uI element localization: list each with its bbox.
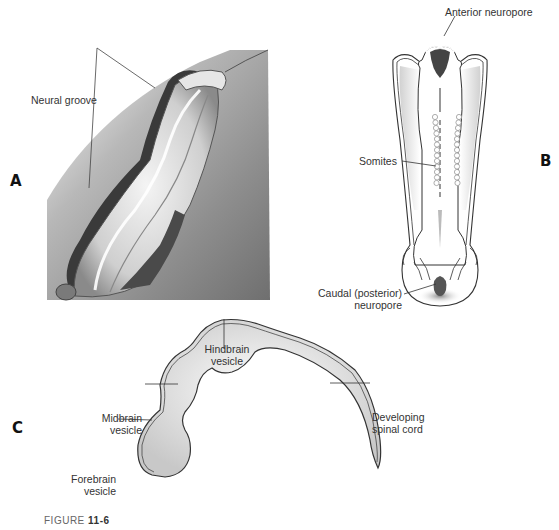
figure-number: 11-6 bbox=[88, 515, 109, 526]
label-forebrain-vesicle: Forebrain vesicle bbox=[62, 473, 116, 497]
label-hindbrain-vesicle: Hindbrain vesicle bbox=[197, 343, 257, 367]
panel-letter-c: C bbox=[12, 419, 23, 437]
figure-prefix: FIGURE bbox=[44, 515, 85, 526]
label-midbrain-vesicle: Midbrain vesicle bbox=[90, 412, 142, 436]
figure-caption: FIGURE 11-6 bbox=[44, 515, 110, 526]
panel-c-illustration bbox=[0, 0, 559, 530]
label-developing-spinal-cord: Developing spinal cord bbox=[372, 411, 425, 435]
